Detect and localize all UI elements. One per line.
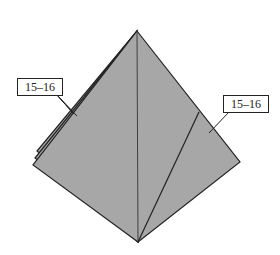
right-step-label: 15–16 [223, 95, 269, 113]
origami-diagram [0, 0, 280, 255]
front-flap [33, 31, 240, 242]
left-leader-lines [57, 95, 77, 116]
left-step-label: 15–16 [17, 78, 63, 96]
right-leader-line [209, 112, 229, 133]
